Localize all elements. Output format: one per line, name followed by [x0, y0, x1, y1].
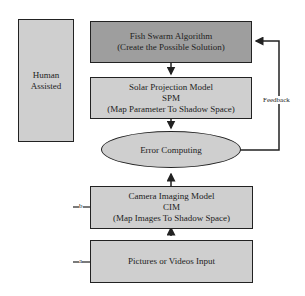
fish-swarm-box: Fish Swarm Algorithm (Create the Possibl…	[90, 21, 252, 63]
error-computing-ellipse: Error Computing	[101, 131, 241, 168]
feedback-label: Feedback	[263, 96, 290, 104]
human-assisted: Human Assisted	[18, 19, 74, 142]
input-label: Pictures or Videos Input	[128, 256, 215, 267]
cim-abbr: CIM	[163, 202, 180, 213]
cim-desc: (Map Images To Shadow Space)	[113, 213, 230, 224]
fish-title: Fish Swarm Algorithm	[130, 31, 213, 42]
error-label: Error Computing	[140, 145, 202, 155]
fish-subtitle: (Create the Possible Solution)	[117, 42, 225, 53]
connector-a-label: a	[79, 257, 82, 265]
spm-box: Solar Projection Model SPM (Map Paramete…	[90, 77, 252, 119]
connector-b-label: b	[79, 202, 83, 210]
cim-box: Camera Imaging Model CIM (Map Images To …	[90, 186, 253, 229]
human-label-1: Human	[33, 70, 60, 81]
spm-abbr: SPM	[162, 93, 180, 104]
spm-title: Solar Projection Model	[129, 82, 213, 93]
spm-desc: (Map Parameter To Shadow Space)	[107, 104, 235, 115]
cim-title: Camera Imaging Model	[129, 191, 215, 202]
human-label-2: Assisted	[31, 81, 62, 92]
input-box: Pictures or Videos Input	[90, 240, 253, 283]
